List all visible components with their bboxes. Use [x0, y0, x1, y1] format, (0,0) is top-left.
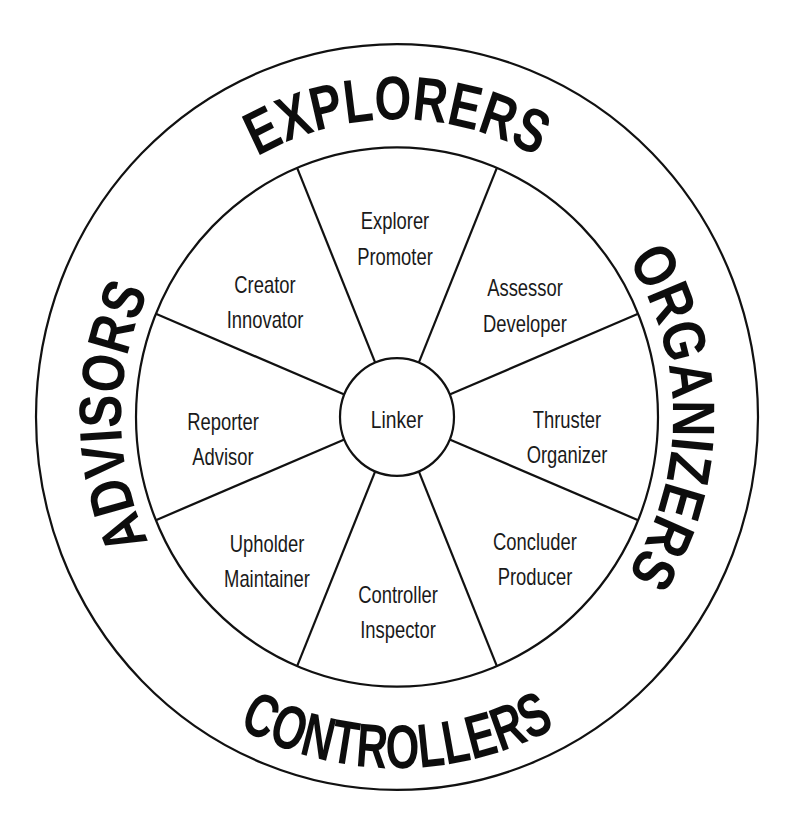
sector-label-line1: Explorer	[361, 208, 430, 233]
sector-label-line2: Maintainer	[224, 566, 310, 591]
group-label-organizers: ORGANIZERS	[617, 232, 727, 602]
sector-label-line1: Thruster	[533, 407, 602, 432]
team-wheel-diagram: EXPLORERS ORGANIZERS CONTROLLERS ADVISOR…	[0, 0, 792, 816]
group-label-controllers: CONTROLLERS	[233, 677, 561, 781]
center-label: Linker	[371, 406, 423, 434]
sector-label-line1: Assessor	[487, 275, 563, 300]
group-label-advisors: ADVISORS	[67, 271, 161, 564]
sector-upholder-maintainer: Upholder Maintainer	[224, 531, 310, 591]
sector-label-line1: Reporter	[187, 409, 259, 434]
sector-thruster-organizer: Thruster Organizer	[527, 407, 608, 467]
sector-label-line2: Advisor	[192, 444, 253, 469]
sector-concluder-producer: Concluder Producer	[493, 529, 577, 589]
sector-label-line2: Organizer	[527, 442, 608, 467]
group-label-explorers: EXPLORERS	[233, 63, 560, 168]
sector-explorer-promoter: Explorer Promoter	[357, 208, 433, 269]
sector-label-line2: Innovator	[227, 307, 304, 332]
sector-label-line2: Inspector	[360, 617, 436, 642]
sector-assessor-developer: Assessor Developer	[483, 275, 567, 336]
sector-label-line1: Concluder	[493, 529, 577, 554]
sector-label-line1: Controller	[358, 582, 438, 607]
sector-label-line1: Upholder	[230, 531, 305, 556]
sector-label-line1: Creator	[234, 272, 295, 297]
sector-creator-innovator: Creator Innovator	[227, 272, 304, 332]
sector-label-line2: Producer	[498, 564, 573, 589]
sector-label-line2: Promoter	[357, 244, 433, 269]
sector-label-line2: Developer	[483, 311, 567, 336]
sector-controller-inspector: Controller Inspector	[358, 582, 438, 642]
sector-reporter-advisor: Reporter Advisor	[187, 409, 259, 469]
